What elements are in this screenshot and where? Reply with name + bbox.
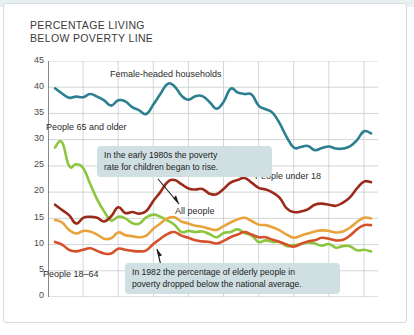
y-tick-label: 30 [22,133,44,143]
y-tick-label: 5 [22,264,44,274]
leader-arrow-elderly [157,249,162,257]
series-label-female-headed: Female-headed households [110,69,222,79]
y-tick-label: 0 [22,290,44,300]
y-tick-label: 15 [22,212,44,222]
series-line [55,178,371,224]
series-label-elderly: People 65 and older [46,122,127,132]
y-tick-label: 40 [22,81,44,91]
line-chart-svg [48,61,378,297]
y-tick-label: 25 [22,159,44,169]
y-tick-label: 45 [22,55,44,65]
y-tick-label: 10 [22,238,44,248]
chart-plot-area: 45 40 35 30 25 20 15 10 5 0 1965 1970 19… [48,61,378,297]
leader-arrow-children [174,195,180,204]
y-tick-label: 35 [22,107,44,117]
y-tick-label: 20 [22,185,44,195]
callout-children-poverty: In the early 1980s the poverty rate for … [97,146,272,177]
screenshot-frame: PERCENTAGE LIVING BELOW POVERTY LINE 45 … [0,0,414,335]
page-title: PERCENTAGE LIVING BELOW POVERTY LINE [30,19,290,45]
callout-elderly-poverty: In 1982 the percentage of elderly people… [125,263,340,294]
series-label-all-people: All people [175,206,215,216]
series-label-adults: People 18–64 [43,269,99,279]
series-line [55,83,371,150]
